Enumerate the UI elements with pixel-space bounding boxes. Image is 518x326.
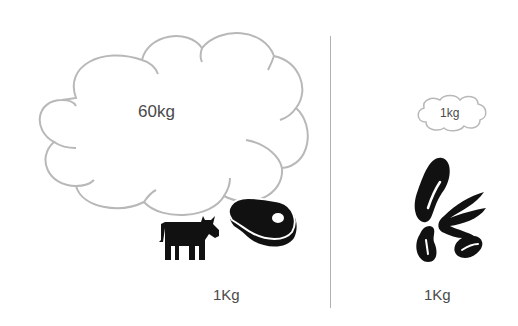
left-weight-label: 1Kg bbox=[213, 286, 240, 303]
divider bbox=[330, 36, 331, 308]
large-cloud-label: 60kg bbox=[138, 102, 175, 122]
right-weight-label: 1Kg bbox=[424, 286, 451, 303]
cow-icon bbox=[157, 210, 225, 262]
small-cloud-label: 1kg bbox=[440, 106, 459, 120]
beans-icon bbox=[404, 150, 490, 268]
steak-icon bbox=[224, 196, 300, 248]
